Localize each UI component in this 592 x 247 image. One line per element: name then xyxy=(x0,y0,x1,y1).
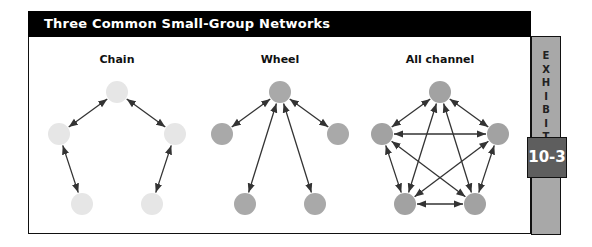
connection-arrow xyxy=(127,99,166,127)
member-node xyxy=(106,81,128,103)
connection-arrow xyxy=(409,103,437,192)
member-node xyxy=(464,193,486,215)
connection-arrow xyxy=(444,103,472,192)
connection-arrow xyxy=(479,145,495,192)
member-node xyxy=(164,123,186,145)
chain-network xyxy=(48,81,186,215)
connection-arrow xyxy=(415,141,489,197)
connection-arrow xyxy=(63,145,79,192)
member-node xyxy=(429,81,451,103)
member-node xyxy=(327,123,349,145)
member-node xyxy=(304,193,326,215)
connection-arrow xyxy=(69,99,108,127)
connection-arrow xyxy=(392,99,431,127)
member-node xyxy=(234,193,256,215)
member-node xyxy=(141,193,163,215)
connection-arrow xyxy=(284,103,312,192)
connection-arrow xyxy=(392,141,466,197)
member-node xyxy=(211,123,233,145)
connection-arrow xyxy=(450,99,489,127)
member-node xyxy=(394,193,416,215)
connection-arrow xyxy=(386,145,402,192)
wheel-network xyxy=(211,81,349,215)
member-node xyxy=(71,193,93,215)
connection-arrow xyxy=(156,145,172,192)
connection-arrow xyxy=(249,103,277,192)
connection-arrow xyxy=(232,99,271,127)
member-node xyxy=(48,123,70,145)
network-diagrams xyxy=(0,0,592,247)
member-node xyxy=(269,81,291,103)
member-node xyxy=(371,123,393,145)
all-channel-network xyxy=(371,81,509,215)
member-node xyxy=(487,123,509,145)
connection-arrow xyxy=(290,99,329,127)
